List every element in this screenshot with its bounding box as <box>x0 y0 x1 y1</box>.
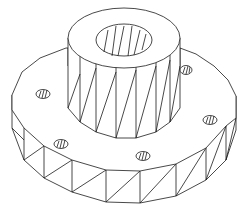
bolt-hole <box>54 140 68 149</box>
center-bore <box>96 24 152 56</box>
cad-drawing-canvas <box>0 0 243 221</box>
flanged-hub-drawing <box>0 0 243 221</box>
bolt-hole <box>203 116 217 125</box>
bolt-hole <box>136 152 150 161</box>
bolt-hole <box>180 66 192 75</box>
bolt-hole <box>36 90 50 99</box>
